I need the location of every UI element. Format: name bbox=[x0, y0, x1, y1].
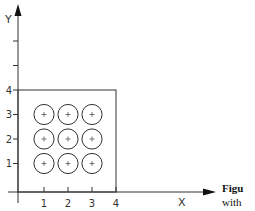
x-tick-label: 3 bbox=[89, 198, 95, 209]
x-axis-label: X bbox=[178, 196, 186, 209]
y-tick-label: 1 bbox=[6, 158, 12, 169]
grid-diagram: Y X 1234 1234 Figu with bbox=[0, 0, 255, 211]
y-tick-label: 4 bbox=[6, 85, 12, 96]
figure-caption-line1: Figu bbox=[222, 182, 243, 194]
x-tick-label: 1 bbox=[41, 198, 47, 209]
x-axis-arrow-icon bbox=[203, 189, 216, 196]
boundary-box bbox=[18, 90, 116, 192]
x-tick-label: 2 bbox=[65, 198, 71, 209]
y-axis-label: Y bbox=[4, 13, 12, 26]
x-tick-label: 4 bbox=[113, 198, 119, 209]
y-tick-label: 3 bbox=[6, 109, 12, 120]
figure-caption-line2: with bbox=[222, 196, 242, 208]
y-tick-label: 2 bbox=[6, 134, 12, 145]
y-axis-arrow-icon bbox=[15, 4, 22, 16]
